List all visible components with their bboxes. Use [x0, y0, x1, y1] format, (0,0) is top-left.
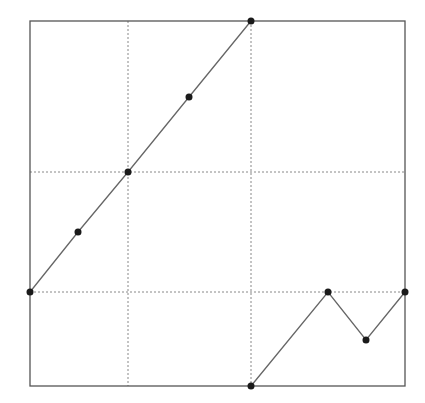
data-point-marker	[125, 169, 132, 176]
series-line	[251, 292, 405, 386]
zigzag-segment	[248, 289, 409, 390]
data-point-marker	[75, 229, 82, 236]
plot-frame	[30, 21, 405, 386]
series-line	[30, 21, 251, 292]
data-series	[27, 18, 409, 390]
data-point-marker	[27, 289, 34, 296]
data-point-marker	[248, 18, 255, 25]
data-point-marker	[363, 337, 370, 344]
data-point-marker	[325, 289, 332, 296]
rising-segment	[27, 18, 255, 296]
data-point-marker	[186, 94, 193, 101]
grid-lines	[30, 21, 405, 386]
data-point-marker	[248, 383, 255, 390]
data-point-marker	[402, 289, 409, 296]
line-chart	[0, 0, 425, 403]
